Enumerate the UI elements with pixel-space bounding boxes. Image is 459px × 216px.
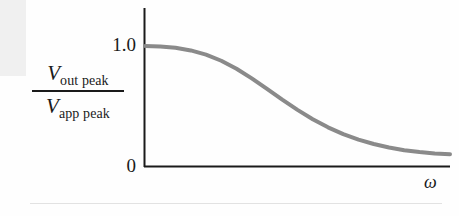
figure-container: Vout peak Vapp peak 1.0 0 ω [0, 0, 459, 216]
response-curve [145, 46, 450, 154]
page-rule [30, 203, 442, 204]
plot-area [0, 0, 459, 216]
